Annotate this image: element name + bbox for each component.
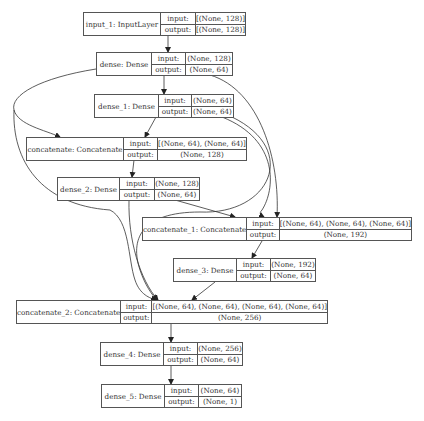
layer-name: dense_1: Dense [95, 95, 159, 117]
output-label: output: [237, 270, 270, 282]
output-shape: (None, 64) [271, 270, 315, 282]
layer-node-dense_3: dense_3: Dense input: output: (None, 192… [173, 258, 316, 282]
output-shape: (None, 64) [155, 189, 199, 201]
layer-name: dense_4: Dense [101, 343, 164, 365]
input-label: input: [120, 178, 154, 189]
layer-node-dense_5: dense_5: Dense input: output: (None, 64)… [101, 384, 242, 408]
input-shape: (None, 192) [271, 259, 315, 270]
layer-node-dense_2: dense_2: Dense input: output: (None, 128… [57, 177, 200, 201]
output-label: output: [165, 396, 198, 408]
input-shape: [(None, 64), (None, 64), (None, 64)] [280, 218, 411, 229]
input-label: input: [165, 385, 198, 396]
output-shape: [(None, 128)] [196, 24, 245, 36]
input-label: input: [247, 218, 278, 229]
edge-concatenate_1-dense_3 [252, 241, 262, 258]
layer-name: dense: Dense [97, 53, 152, 75]
output-label: output: [159, 106, 191, 118]
layer-name: concatenate_1: Concatenate [143, 218, 247, 240]
output-label: output: [152, 64, 185, 76]
input-shape: (None, 128) [186, 53, 232, 64]
input-shape: (None, 64) [192, 95, 233, 106]
output-shape: (None, 64) [186, 64, 232, 76]
input-shape: [(None, 128)] [196, 13, 245, 24]
output-shape: (None, 64) [198, 354, 242, 366]
layer-name: dense_5: Dense [102, 385, 165, 407]
input-label: input: [161, 13, 195, 24]
layer-node-input_1: input_1: InputLayer input: output: [(Non… [83, 12, 246, 36]
output-label: output: [247, 229, 278, 241]
layer-name: concatenate: Concatenate [27, 138, 124, 160]
edge-concatenate-dense_2 [132, 160, 134, 177]
layer-node-concatenate_2: concatenate_2: Concatenate input: output… [16, 300, 328, 324]
edge-dense_1-concatenate [145, 117, 156, 137]
input-label: input: [159, 95, 191, 106]
output-label: output: [161, 24, 195, 36]
output-label: output: [120, 189, 154, 201]
layer-name: concatenate_2: Concatenate [17, 301, 121, 323]
input-label: input: [124, 138, 157, 149]
layer-node-dense_4: dense_4: Dense input: output: (None, 256… [100, 342, 243, 366]
layer-node-dense_1: dense_1: Dense input: output: (None, 64)… [94, 94, 234, 118]
input-label: input: [164, 343, 197, 354]
output-label: output: [121, 312, 151, 324]
output-shape: (None, 192) [280, 229, 411, 241]
layer-node-dense: dense: Dense input: output: (None, 128) … [96, 52, 233, 76]
layer-name: dense_2: Dense [58, 178, 120, 200]
output-shape: (None, 256) [152, 312, 327, 324]
output-shape: (None, 128) [158, 149, 246, 161]
input-label: input: [152, 53, 185, 64]
edge-dense-concatenate [14, 69, 96, 137]
layer-name: input_1: InputLayer [84, 13, 161, 35]
input-shape: (None, 256) [198, 343, 242, 354]
edge-dense_3-concatenate_2 [192, 282, 215, 300]
edge-dense_2-concatenate_2 [129, 200, 158, 300]
output-label: output: [164, 354, 197, 366]
output-shape: (None, 1) [199, 396, 241, 408]
input-label: input: [121, 301, 151, 312]
output-label: output: [124, 149, 157, 161]
layer-node-concatenate_1: concatenate_1: Concatenate input: output… [142, 217, 412, 241]
layer-name: dense_3: Dense [174, 259, 237, 281]
input-shape: [(None, 64), (None, 64)] [158, 138, 246, 149]
input-label: input: [237, 259, 270, 270]
input-shape: (None, 128) [155, 178, 199, 189]
layer-node-concatenate: concatenate: Concatenate input: output: … [26, 137, 247, 161]
edge-dense_2-concatenate_1 [175, 200, 235, 217]
output-shape: (None, 64) [192, 106, 233, 118]
input-shape: [(None, 64), (None, 64), (None, 64), (No… [152, 301, 327, 312]
input-shape: (None, 64) [199, 385, 241, 396]
